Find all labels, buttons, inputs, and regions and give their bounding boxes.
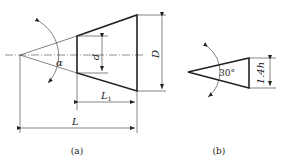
figure-b: 30° 1.4h (b)	[188, 47, 276, 156]
small-diameter-label: d	[90, 54, 101, 60]
large-diameter-label: D	[150, 50, 161, 59]
cone-frustum	[77, 15, 137, 91]
angle-arc-alpha	[40, 22, 59, 83]
angle-label-30: 30°	[219, 68, 235, 78]
total-length-label: L	[71, 116, 79, 127]
angle-label-alpha: α	[56, 57, 63, 68]
figure-a: α d D L1 L (a)	[5, 15, 166, 156]
cone-diagram: α d D L1 L (a) 30° 1.4h (b)	[0, 0, 291, 168]
caption-b: (b)	[213, 146, 226, 156]
height-label: 1.4h	[255, 62, 266, 84]
partial-length-label: L1	[100, 90, 111, 102]
diagram-root: α d D L1 L (a) 30° 1.4h (b)	[0, 0, 291, 168]
apex-line-bottom	[20, 55, 77, 73]
apex-line-top	[20, 36, 77, 55]
caption-a: (a)	[71, 146, 83, 156]
